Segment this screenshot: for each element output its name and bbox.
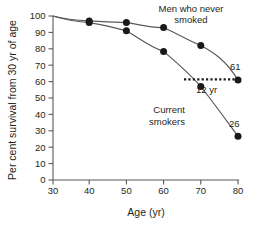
x-tick-label-80: 80 xyxy=(233,185,244,196)
x-tick-label-30: 30 xyxy=(48,185,59,196)
data-point-never-smoked-50 xyxy=(123,19,130,26)
x-tick-label-60: 60 xyxy=(158,185,169,196)
y-axis-ticks xyxy=(49,16,54,180)
endpoint-value-never-smoked: 61 xyxy=(230,61,241,72)
survival-gap-label: 12 yr xyxy=(196,84,217,95)
survival-curve-figure: Per cent survival from 30 yr of age 100 … xyxy=(0,0,259,229)
data-point-never-smoked-80 xyxy=(235,77,242,84)
x-axis-ticks xyxy=(53,180,238,185)
curve-never-smoked xyxy=(53,16,238,80)
y-tick-label-100: 100 xyxy=(30,10,46,21)
series-label-current-smokers-line1: Current xyxy=(153,104,185,115)
data-point-current-smokers-80 xyxy=(235,133,242,140)
data-point-current-smokers-40 xyxy=(86,19,93,26)
x-tick-label-70: 70 xyxy=(196,185,207,196)
curve-current-smokers xyxy=(53,16,238,136)
y-tick-label-80: 80 xyxy=(35,43,46,54)
data-point-never-smoked-60 xyxy=(160,24,167,31)
y-tick-label-20: 20 xyxy=(35,142,46,153)
endpoint-value-current-smokers: 26 xyxy=(229,118,240,129)
y-tick-label-60: 60 xyxy=(35,76,46,87)
y-tick-label-10: 10 xyxy=(35,158,46,169)
series-label-never-smoked-line1: Men who never xyxy=(159,3,224,14)
x-tick-label-40: 40 xyxy=(84,185,95,196)
series-label-current-smokers-line2: smokers xyxy=(149,116,185,127)
y-tick-label-90: 90 xyxy=(35,27,46,38)
y-tick-label-70: 70 xyxy=(35,60,46,71)
data-point-current-smokers-60 xyxy=(160,48,167,55)
y-tick-label-50: 50 xyxy=(35,92,46,103)
data-point-current-smokers-50 xyxy=(123,27,130,34)
series-label-never-smoked-line2: smoked xyxy=(174,14,207,25)
x-tick-label-50: 50 xyxy=(121,185,132,196)
x-axis-title: Age (yr) xyxy=(127,206,164,218)
y-axis-title: Per cent survival from 30 yr of age xyxy=(6,20,18,180)
y-tick-label-30: 30 xyxy=(35,125,46,136)
chart-canvas: Per cent survival from 30 yr of age 100 … xyxy=(0,0,259,229)
y-tick-label-0: 0 xyxy=(40,174,45,185)
data-point-never-smoked-70 xyxy=(197,42,204,49)
y-tick-label-40: 40 xyxy=(35,109,46,120)
